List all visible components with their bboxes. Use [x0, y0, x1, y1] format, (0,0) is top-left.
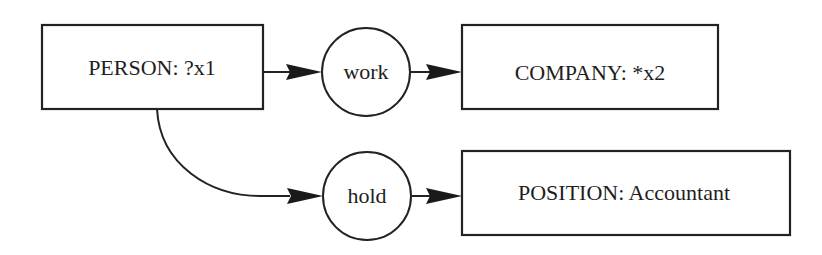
relation-work-label: work — [343, 59, 388, 84]
concept-company-label: COMPANY: *x2 — [515, 60, 666, 85]
arrowhead-icon — [426, 188, 462, 204]
concept-company[interactable]: COMPANY: *x2 — [462, 25, 718, 109]
edge-hold-to-position — [411, 188, 462, 204]
edge-person-to-hold — [157, 109, 323, 204]
concept-position[interactable]: POSITION: Accountant — [462, 151, 790, 235]
relation-hold-label: hold — [347, 183, 386, 208]
relation-hold[interactable]: hold — [323, 152, 411, 240]
edge-curve — [157, 109, 290, 196]
arrowhead-icon — [287, 188, 323, 204]
concept-position-label: POSITION: Accountant — [518, 180, 730, 205]
concept-person-label: PERSON: ?x1 — [88, 55, 216, 80]
arrowhead-icon — [286, 64, 322, 80]
concept-person[interactable]: PERSON: ?x1 — [42, 25, 263, 109]
arrowhead-icon — [426, 64, 462, 80]
conceptual-graph-diagram: PERSON: ?x1 work COMPANY: *x2 hold POSIT… — [0, 0, 822, 255]
relation-work[interactable]: work — [322, 28, 410, 116]
edge-person-to-work — [263, 64, 322, 80]
edge-work-to-company — [410, 64, 462, 80]
